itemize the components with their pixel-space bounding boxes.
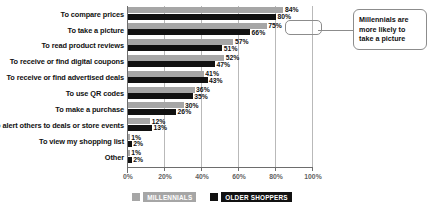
bar-millennials: [128, 55, 224, 61]
chart-row: To use QR codes36%35%: [0, 87, 424, 103]
x-axis-tick: [275, 167, 276, 171]
bar-millennials: [128, 87, 195, 93]
category-label: To make a purchase: [0, 106, 124, 113]
bar-value-label: 51%: [224, 46, 238, 53]
bar-millennials: [128, 39, 233, 45]
chart-row: To make a purchase30%26%: [0, 102, 424, 118]
legend-swatch-icon: [210, 193, 218, 201]
x-axis-tick-label: 100%: [304, 173, 321, 180]
bar-millennials: [128, 7, 283, 13]
category-label: To take a picture: [0, 27, 124, 34]
legend-swatch-icon: [132, 193, 140, 201]
bar-older-shoppers: [128, 93, 193, 99]
bar-millennials: [128, 23, 267, 29]
chart-legend: MILLENNIALSOLDER SHOPPERS: [0, 192, 424, 202]
chart-row: Other1%2%: [0, 150, 424, 166]
bar-older-shoppers: [128, 125, 152, 131]
bar-older-shoppers: [128, 45, 222, 51]
x-axis-tick-label: 20%: [158, 173, 172, 180]
legend-item: MILLENNIALS: [132, 192, 196, 202]
category-label: Other: [0, 154, 124, 161]
x-axis-tick: [238, 167, 239, 171]
bar-value-label: 43%: [209, 78, 223, 85]
category-label: To receive or find advertised deals: [0, 74, 124, 81]
bar-older-shoppers: [128, 29, 250, 35]
callout-highlight-box: [285, 20, 322, 35]
chart-row: To receive or find digital coupons52%47%: [0, 55, 424, 71]
bar-older-shoppers: [128, 157, 132, 163]
bar-value-label: 13%: [154, 125, 168, 132]
bar-older-shoppers: [128, 141, 132, 147]
bar-older-shoppers: [128, 77, 208, 83]
x-axis-tick: [312, 167, 313, 171]
x-axis-line: [127, 167, 313, 168]
x-axis-tick-label: 60%: [232, 173, 246, 180]
category-label: To alert others to deals or store events: [0, 122, 124, 129]
category-label: To view my shopping list: [0, 138, 124, 145]
callout-connector-line: [318, 30, 354, 31]
category-label: To use QR codes: [0, 90, 124, 97]
x-axis-tick: [127, 167, 128, 171]
chart-row: To view my shopping list1%2%: [0, 134, 424, 150]
x-axis-tick-label: 0%: [123, 173, 133, 180]
x-axis-tick: [164, 167, 165, 171]
bar-millennials: [128, 71, 204, 77]
bar-value-label: 26%: [178, 109, 192, 116]
category-label: To read product reviews: [0, 42, 124, 49]
x-axis-tick-label: 40%: [195, 173, 209, 180]
x-axis-tick: [201, 167, 202, 171]
x-axis-tick-label: 80%: [269, 173, 283, 180]
bar-millennials: [128, 150, 130, 156]
bar-millennials: [128, 118, 150, 124]
category-label: To receive or find digital coupons: [0, 58, 124, 65]
chart-row: To alert others to deals or store events…: [0, 118, 424, 134]
bar-older-shoppers: [128, 109, 176, 115]
bar-value-label: 35%: [194, 94, 208, 101]
bar-value-label: 47%: [216, 62, 230, 69]
bar-older-shoppers: [128, 61, 215, 67]
bar-millennials: [128, 134, 130, 140]
chart-row: To receive or find advertised deals41%43…: [0, 71, 424, 87]
legend-label: OLDER SHOPPERS: [221, 192, 291, 202]
bar-value-label: 66%: [252, 30, 266, 37]
bar-older-shoppers: [128, 14, 276, 20]
bar-value-label: 2%: [133, 141, 143, 148]
callout-annotation: Millennials are more likely to take a pi…: [353, 9, 427, 50]
category-label: To compare prices: [0, 11, 124, 18]
bar-value-label: 75%: [268, 23, 282, 30]
bar-value-label: 2%: [133, 157, 143, 164]
legend-item: OLDER SHOPPERS: [210, 192, 291, 202]
legend-label: MILLENNIALS: [143, 192, 196, 202]
bar-millennials: [128, 102, 184, 108]
